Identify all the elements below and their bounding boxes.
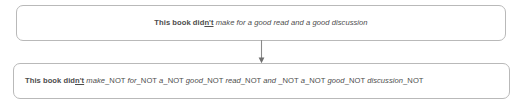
token-suffix: _NOT (137, 76, 159, 85)
token-scope: for (128, 76, 137, 85)
diagram-canvas: This book didn't make for a good read an… (0, 0, 522, 103)
token-scope: good (186, 76, 203, 85)
token-suffix: _NOT (305, 76, 327, 85)
token-scope: good (328, 76, 345, 85)
transformed-sentence-box: This book didn't make_NOT for_NOT a_NOT … (13, 63, 510, 99)
token-suffix: _NOT (105, 76, 127, 85)
token-cue: n't (75, 76, 84, 85)
token-suffix: _NOT (203, 76, 225, 85)
token-scope: and (263, 76, 278, 85)
source-sentence-text: This book didn't make for a good read an… (154, 18, 367, 28)
transformed-sentence-text: This book didn't make_NOT for_NOT a_NOT … (25, 76, 424, 86)
token-suffix: _NOT (403, 76, 423, 85)
down-arrow-icon (255, 40, 269, 64)
token-plain: This book did (154, 18, 204, 27)
token-cue: n't (204, 18, 213, 27)
source-sentence-box: This book didn't make for a good read an… (16, 5, 506, 41)
token-scope: discussion (367, 76, 403, 85)
token-suffix: _NOT (163, 76, 185, 85)
token-suffix: _NOT (345, 76, 367, 85)
connector-arrow (255, 40, 269, 64)
token-scope: make for a good read and a good discussi… (216, 18, 368, 27)
token-suffix: _NOT (278, 76, 300, 85)
token-suffix: _NOT (241, 76, 263, 85)
token-plain: This book did (25, 76, 75, 85)
token-scope: read (225, 76, 240, 85)
token-scope: make (86, 76, 105, 85)
